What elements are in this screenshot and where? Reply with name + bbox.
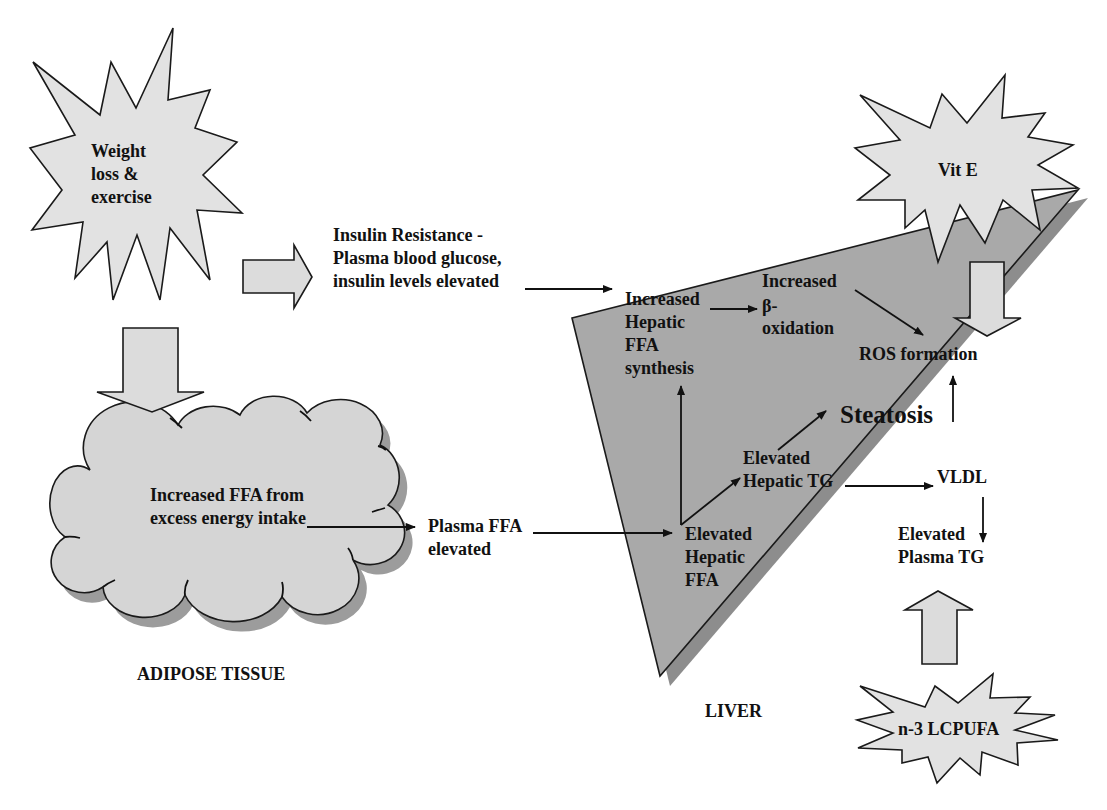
vldl-label: VLDL — [937, 467, 987, 487]
ros-formation-label: ROS formation — [859, 344, 978, 364]
n3-lcpufa-label: n-3 LCPUFA — [898, 719, 999, 739]
starburst-n3-lcpufa: n-3 LCPUFA — [857, 674, 1058, 783]
nafld-pathway-diagram: Weight loss & exercise Vit E n-3 LCPUFA … — [0, 0, 1107, 810]
weight-loss-label: Weight loss & exercise — [91, 141, 152, 207]
plasma-tg-label: Elevated Plasma TG — [898, 524, 984, 567]
block-arrow-right — [243, 245, 312, 308]
steatosis-label: Steatosis — [840, 401, 933, 428]
plasma-ffa-label: Plasma FFA elevated — [428, 516, 526, 559]
insulin-resistance-label: Insulin Resistance - Plasma blood glucos… — [333, 225, 506, 291]
starburst-weight-loss: Weight loss & exercise — [30, 28, 242, 300]
liver-shape — [572, 190, 1088, 686]
block-arrow-up-n3 — [905, 591, 973, 664]
liver-label: LIVER — [705, 701, 763, 721]
block-arrow-down-to-cloud — [97, 328, 204, 412]
vit-e-label: Vit E — [938, 160, 978, 180]
adipose-tissue-label: ADIPOSE TISSUE — [137, 664, 285, 684]
